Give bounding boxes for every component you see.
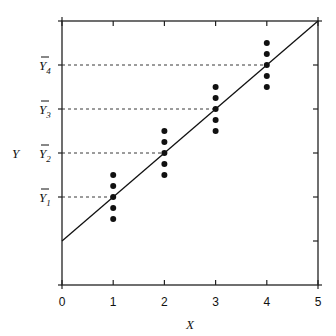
data-point [213, 84, 219, 90]
data-point [161, 150, 167, 156]
data-point [161, 172, 167, 178]
data-point [110, 205, 116, 211]
data-point [110, 183, 116, 189]
y-axis-label: Y [12, 146, 21, 161]
data-point [161, 139, 167, 145]
y-mean-label: Y2 [39, 146, 51, 164]
data-point [264, 62, 270, 68]
data-point [110, 216, 116, 222]
data-point [213, 95, 219, 101]
scatter-chart: 012345Y1Y2Y3Y4XY [0, 0, 336, 336]
x-tick-label: 4 [263, 295, 270, 309]
data-point [264, 84, 270, 90]
y-mean-label: Y4 [39, 58, 51, 76]
data-point [264, 51, 270, 57]
data-point [161, 161, 167, 167]
y-mean-label: Y3 [39, 102, 51, 120]
y-mean-label: Y1 [39, 190, 51, 208]
data-point [110, 172, 116, 178]
x-tick-label: 2 [161, 295, 168, 309]
regression-line [62, 21, 318, 241]
data-point [264, 73, 270, 79]
data-point [110, 194, 116, 200]
data-point [213, 106, 219, 112]
x-tick-label: 0 [59, 295, 66, 309]
data-point [213, 117, 219, 123]
x-tick-label: 1 [110, 295, 117, 309]
x-axis-label: X [185, 317, 195, 332]
x-tick-label: 3 [212, 295, 219, 309]
data-point [161, 128, 167, 134]
data-point [213, 128, 219, 134]
x-tick-label: 5 [315, 295, 322, 309]
data-point [264, 40, 270, 46]
